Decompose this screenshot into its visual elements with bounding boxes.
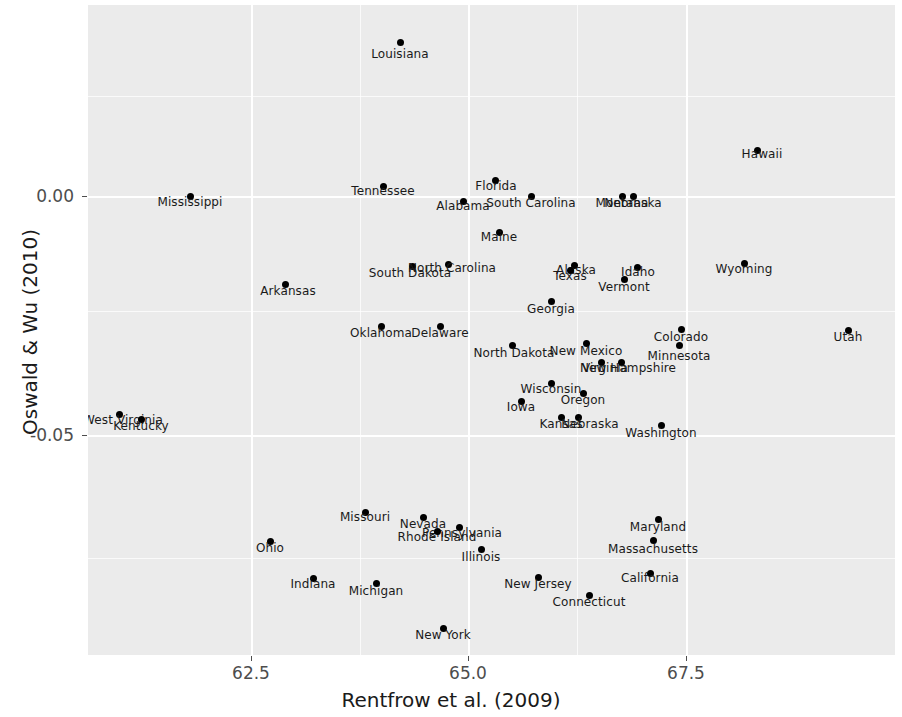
data-point-label: Florida <box>475 180 517 192</box>
data-point-label: New Mexico <box>550 345 623 357</box>
data-point-label: Michigan <box>349 585 404 597</box>
data-point-label: Tennessee <box>351 185 414 197</box>
x-tick-label: 65.0 <box>449 663 487 683</box>
gridline-minor-vertical <box>577 5 578 655</box>
data-point-label: Nebraska <box>561 418 618 430</box>
x-tick-label: 67.5 <box>667 663 705 683</box>
data-point-label: New Jersey <box>504 578 572 590</box>
data-point-label: Maine <box>481 231 518 243</box>
data-point-label: South Carolina <box>486 197 575 209</box>
data-point-label: Illinois <box>462 551 501 563</box>
y-tick-mark <box>82 435 87 436</box>
data-point-label: Wyoming <box>715 263 772 275</box>
data-point-label: Washington <box>625 427 697 439</box>
x-tick-mark <box>468 656 469 661</box>
data-point-label: New Hampshire <box>580 362 676 374</box>
data-point-label: Vermont <box>598 281 649 293</box>
data-point-label: Oregon <box>561 394 606 406</box>
x-tick-mark <box>686 656 687 661</box>
data-point <box>676 342 683 349</box>
gridline-minor-horizontal <box>88 96 895 97</box>
gridline-major-vertical <box>251 5 253 655</box>
data-point <box>397 39 404 46</box>
data-point-label: Indiana <box>290 578 335 590</box>
data-point-label: Massachusetts <box>608 543 698 555</box>
data-point-label: Alabama <box>436 200 490 212</box>
data-point-label: California <box>621 572 679 584</box>
data-point-label: Iowa <box>507 401 535 413</box>
data-point-label: North Carolina <box>408 262 496 274</box>
data-point-label: Kentucky <box>113 420 169 432</box>
data-point-label: Texas <box>553 270 587 282</box>
data-point-label: Georgia <box>527 303 575 315</box>
data-point-label: Maryland <box>630 521 686 533</box>
data-point-label: Nebraska <box>604 197 661 209</box>
gridline-minor-horizontal <box>88 311 895 312</box>
data-point-label: Colorado <box>654 331 708 343</box>
x-tick-mark <box>251 656 252 661</box>
data-point-label: Louisiana <box>371 48 429 60</box>
y-axis-title: Oswald & Wu (2010) <box>18 152 42 512</box>
y-tick-mark <box>82 196 87 197</box>
scatter-plot-figure: LouisianaHawaiiMississippiTennesseeFlori… <box>0 0 902 717</box>
data-point-label: Ohio <box>256 542 284 554</box>
plot-panel: LouisianaHawaiiMississippiTennesseeFlori… <box>88 5 895 655</box>
data-point-label: Oklahoma <box>350 327 412 339</box>
data-point-label: Mississippi <box>157 196 222 208</box>
data-point-label: Rhode Island <box>397 531 476 543</box>
data-point-label: Connecticut <box>553 596 626 608</box>
gridline-major-horizontal <box>88 435 895 437</box>
x-tick-label: 62.5 <box>232 663 270 683</box>
data-point-label: Arkansas <box>260 285 316 297</box>
data-point-label: New York <box>415 629 471 641</box>
data-point-label: Delaware <box>411 327 468 339</box>
data-point-label: North Dakota <box>473 347 554 359</box>
data-point-label: Missouri <box>340 511 390 523</box>
data-point-label: Hawaii <box>742 148 783 160</box>
x-axis-title: Rentfrow et al. (2009) <box>0 688 902 712</box>
data-point-label: Utah <box>834 331 863 343</box>
